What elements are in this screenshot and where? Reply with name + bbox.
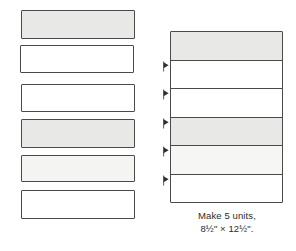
unit-band: [171, 32, 282, 60]
unit-band: [171, 60, 282, 89]
unit-band: [171, 117, 282, 146]
caption-line-dimensions: 8½" × 12½".: [160, 223, 294, 236]
arrow-right-icon: [162, 89, 171, 100]
unit-caption: Make 5 units, 8½" × 12½".: [160, 210, 294, 235]
caption-line-make-count: Make 5 units,: [160, 210, 294, 223]
fabric-strip: [21, 84, 135, 112]
unit-band: [171, 145, 282, 174]
fabric-strip: [21, 155, 135, 182]
arrow-right-icon: [162, 118, 171, 129]
fabric-strip: [21, 190, 135, 219]
arrow-right-icon: [162, 146, 171, 157]
fabric-strip: [21, 119, 135, 148]
unit-band: [171, 174, 282, 203]
arrow-right-icon: [162, 175, 171, 186]
strip-piecing-diagram: Make 5 units, 8½" × 12½".: [0, 0, 296, 251]
arrow-right-icon: [162, 61, 171, 72]
fabric-strip: [20, 45, 134, 73]
assembled-unit: [170, 31, 283, 203]
fabric-strip: [21, 10, 135, 39]
unit-band: [171, 88, 282, 117]
